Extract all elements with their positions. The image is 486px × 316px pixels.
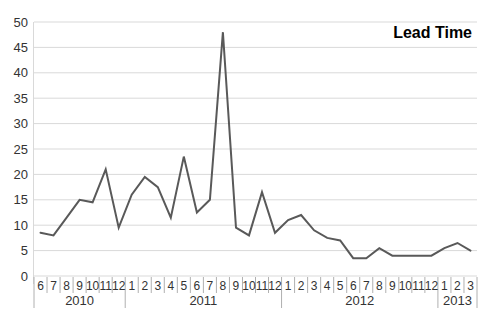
month-label: 7 xyxy=(50,279,57,293)
chart-title: Lead Time xyxy=(393,24,472,41)
lead-time-chart: 0510152025303540455067891011121234567891… xyxy=(0,0,486,316)
month-label: 11 xyxy=(99,279,112,293)
year-label: 2010 xyxy=(65,293,94,308)
year-label: 2012 xyxy=(345,293,374,308)
month-label: 9 xyxy=(233,279,240,293)
month-label: 12 xyxy=(425,279,439,293)
year-label: 2013 xyxy=(443,293,472,308)
month-label: 8 xyxy=(376,279,383,293)
y-axis-label: 40 xyxy=(14,65,28,80)
gridlines xyxy=(34,22,478,284)
month-label: 11 xyxy=(412,279,425,293)
month-label: 5 xyxy=(337,279,344,293)
month-label: 5 xyxy=(180,279,187,293)
month-label: 2 xyxy=(298,279,305,293)
month-label: 12 xyxy=(268,279,282,293)
y-axis-label: 0 xyxy=(21,269,28,284)
y-axis-label: 35 xyxy=(14,91,28,106)
month-label: 4 xyxy=(167,279,174,293)
month-label: 11 xyxy=(256,279,269,293)
month-label: 1 xyxy=(128,279,135,293)
month-label: 8 xyxy=(220,279,227,293)
month-label: 6 xyxy=(350,279,357,293)
month-label: 6 xyxy=(194,279,201,293)
y-axis-label: 45 xyxy=(14,40,28,55)
month-label: 9 xyxy=(389,279,396,293)
y-axis-label: 25 xyxy=(14,142,28,157)
y-axis-label: 30 xyxy=(14,116,28,131)
y-axis-label: 5 xyxy=(21,243,28,258)
month-label: 10 xyxy=(86,279,100,293)
chart-canvas: 0510152025303540455067891011121234567891… xyxy=(0,0,486,316)
month-label: 6 xyxy=(37,279,44,293)
y-axis-label: 50 xyxy=(14,15,28,30)
month-label: 3 xyxy=(154,279,161,293)
month-label: 10 xyxy=(399,279,413,293)
month-label: 7 xyxy=(207,279,214,293)
y-axis-label: 15 xyxy=(14,192,28,207)
month-label: 9 xyxy=(76,279,83,293)
month-label: 12 xyxy=(112,279,126,293)
month-label: 7 xyxy=(363,279,370,293)
y-axis-label: 10 xyxy=(14,218,28,233)
month-label: 3 xyxy=(311,279,318,293)
month-label: 3 xyxy=(467,279,474,293)
month-label: 2 xyxy=(141,279,148,293)
month-label: 8 xyxy=(63,279,70,293)
month-label: 1 xyxy=(285,279,292,293)
y-axis-label: 20 xyxy=(14,167,28,182)
lead-time-series xyxy=(41,32,471,258)
month-label: 1 xyxy=(441,279,448,293)
month-label: 10 xyxy=(242,279,256,293)
month-label: 4 xyxy=(324,279,331,293)
year-label: 2011 xyxy=(189,293,217,308)
axis-labels: 0510152025303540455067891011121234567891… xyxy=(14,15,475,309)
series-line xyxy=(41,32,471,258)
month-label: 2 xyxy=(454,279,461,293)
